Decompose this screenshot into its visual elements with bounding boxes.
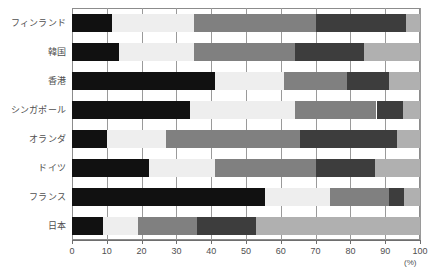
bar-segment-4 xyxy=(295,43,365,61)
bar-segment-3 xyxy=(215,159,316,177)
bar-segment-4 xyxy=(377,101,403,119)
category-label-6: ドイツ xyxy=(38,163,66,173)
x-tick-90 xyxy=(385,240,386,244)
bar-segment-4 xyxy=(316,14,406,32)
x-tick-label-100: 100 xyxy=(406,246,434,256)
category-label-3: 香港 xyxy=(48,76,66,86)
x-tick-label-80: 80 xyxy=(336,246,364,256)
bar-segment-2 xyxy=(215,72,285,90)
x-tick-20 xyxy=(142,240,143,244)
bar-segment-5 xyxy=(404,188,420,206)
bar-row xyxy=(72,159,420,177)
bar-segment-1 xyxy=(72,159,149,177)
x-axis-unit-label: (%) xyxy=(404,258,416,267)
stacked-bar-chart: フィンランド韓国香港シンガポールオランダドイツフランス日本 (%) 010203… xyxy=(0,0,439,278)
x-tick-40 xyxy=(211,240,212,244)
x-tick-label-10: 10 xyxy=(93,246,121,256)
bar-row xyxy=(72,188,420,206)
bar-segment-1 xyxy=(72,72,215,90)
bar-segment-2 xyxy=(149,159,215,177)
x-tick-80 xyxy=(350,240,351,244)
bar-segment-1 xyxy=(72,43,119,61)
gridline-100 xyxy=(420,8,421,240)
bar-segment-5 xyxy=(389,72,420,90)
bar-segment-2 xyxy=(112,14,194,32)
bar-segment-3 xyxy=(166,130,300,148)
bar-segment-2 xyxy=(103,217,138,235)
bar-row xyxy=(72,130,420,148)
bar-segment-3 xyxy=(194,43,295,61)
x-tick-label-30: 30 xyxy=(162,246,190,256)
category-label-1: フィンランド xyxy=(11,18,66,28)
x-tick-60 xyxy=(281,240,282,244)
bar-segment-3 xyxy=(194,14,316,32)
x-tick-label-40: 40 xyxy=(197,246,225,256)
bar-segment-5 xyxy=(375,159,420,177)
x-tick-70 xyxy=(316,240,317,244)
bar-segment-3 xyxy=(284,72,347,90)
bar-row xyxy=(72,101,420,119)
bar-segment-1 xyxy=(72,101,190,119)
x-tick-30 xyxy=(176,240,177,244)
bar-segment-3 xyxy=(295,101,377,119)
x-tick-label-20: 20 xyxy=(128,246,156,256)
x-tick-label-50: 50 xyxy=(232,246,260,256)
category-label-2: 韓国 xyxy=(48,47,66,57)
category-axis-labels: フィンランド韓国香港シンガポールオランダドイツフランス日本 xyxy=(0,0,70,240)
x-tick-50 xyxy=(246,240,247,244)
plot-area xyxy=(72,8,420,240)
category-label-4: シンガポール xyxy=(11,105,66,115)
bar-row xyxy=(72,72,420,90)
bar-segment-2 xyxy=(190,101,294,119)
bar-segment-3 xyxy=(138,217,197,235)
bar-segment-1 xyxy=(72,14,112,32)
bar-segment-5 xyxy=(364,43,420,61)
x-tick-label-60: 60 xyxy=(267,246,295,256)
bar-segment-1 xyxy=(72,130,107,148)
category-label-7: フランス xyxy=(29,192,66,202)
bar-row xyxy=(72,217,420,235)
bar-segment-5 xyxy=(256,217,420,235)
bar-segment-4 xyxy=(389,188,405,206)
x-tick-0 xyxy=(72,240,73,244)
x-tick-label-90: 90 xyxy=(371,246,399,256)
bar-segment-2 xyxy=(119,43,194,61)
x-tick-100 xyxy=(420,240,421,244)
bar-segment-1 xyxy=(72,188,265,206)
bar-segment-4 xyxy=(347,72,389,90)
x-tick-10 xyxy=(107,240,108,244)
x-tick-label-0: 0 xyxy=(58,246,86,256)
bar-segment-3 xyxy=(330,188,389,206)
bar-segment-5 xyxy=(397,130,420,148)
bar-row xyxy=(72,43,420,61)
bar-segment-1 xyxy=(72,217,103,235)
bar-segment-4 xyxy=(316,159,375,177)
category-label-8: 日本 xyxy=(48,221,66,231)
x-tick-label-70: 70 xyxy=(302,246,330,256)
bar-row xyxy=(72,14,420,32)
bar-segment-4 xyxy=(300,130,397,148)
bar-segment-5 xyxy=(406,14,420,32)
bar-segment-2 xyxy=(107,130,166,148)
bar-segment-5 xyxy=(403,101,420,119)
category-label-5: オランダ xyxy=(29,134,66,144)
bar-segment-2 xyxy=(265,188,329,206)
bar-segment-4 xyxy=(197,217,256,235)
